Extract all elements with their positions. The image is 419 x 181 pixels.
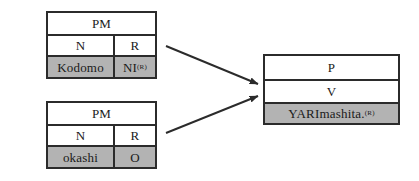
result-row-p: P [265, 56, 398, 81]
result-cell-yarimashita: YARImashita.(R) [265, 104, 398, 123]
result-row-v: V [265, 81, 398, 104]
arrow-source-2-to-result [166, 96, 258, 133]
diagram-canvas: PM N R Kodomo NI(R) PM N R okashi O P [0, 0, 419, 181]
result-cell-yarimashita-superscript: (R) [365, 110, 375, 117]
feature-cell-n: N [48, 36, 115, 55]
result-row-value: YARImashita.(R) [265, 104, 398, 123]
value-cell-kodomo: Kodomo [48, 57, 115, 77]
arrow-source-1-to-result [166, 46, 258, 84]
value-cell-okashi: okashi [48, 147, 115, 167]
header-cell-pm: PM [48, 13, 155, 34]
header-cell-pm: PM [48, 103, 155, 124]
table-feature-row: N R [48, 36, 155, 57]
value-cell-ni-superscript: (R) [137, 64, 147, 71]
value-cell-ni-text: NI [123, 61, 137, 74]
table-value-row: Kodomo NI(R) [48, 57, 155, 77]
table-value-row: okashi O [48, 147, 155, 167]
feature-structure-table-result: P V YARImashita.(R) [263, 54, 400, 125]
feature-structure-table-source-1: PM N R Kodomo NI(R) [46, 11, 157, 79]
result-cell-yarimashita-text: YARImashita. [288, 107, 364, 120]
feature-cell-r: R [115, 126, 155, 145]
table-header-row: PM [48, 13, 155, 36]
table-feature-row: N R [48, 126, 155, 147]
feature-cell-n: N [48, 126, 115, 145]
result-cell-v: V [265, 81, 398, 102]
feature-structure-table-source-2: PM N R okashi O [46, 101, 157, 169]
result-cell-p: P [265, 56, 398, 79]
table-header-row: PM [48, 103, 155, 126]
feature-cell-r: R [115, 36, 155, 55]
value-cell-ni: NI(R) [115, 57, 155, 77]
value-cell-o: O [115, 147, 155, 167]
